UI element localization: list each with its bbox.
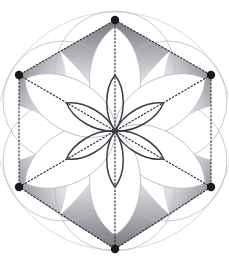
vertex-dot-upper-left bbox=[15, 71, 23, 79]
vertex-dot-lower-left bbox=[15, 183, 23, 191]
vertex-dot-top bbox=[111, 16, 119, 24]
sacred-geometry-figure bbox=[0, 0, 229, 271]
figure-root bbox=[0, 0, 229, 271]
vertex-dot-bottom bbox=[111, 245, 119, 253]
vertex-dot-lower-right bbox=[207, 183, 215, 191]
vertex-dot-upper-right bbox=[207, 71, 215, 79]
